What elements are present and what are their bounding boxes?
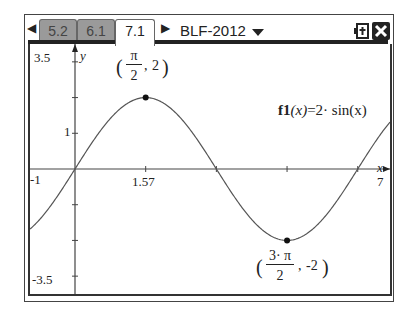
max-point-num: π [126,48,142,65]
tab-7-1[interactable]: 7.1 [115,19,155,46]
paren-close: ) [162,56,169,79]
tab-5-2[interactable]: 5.2 [39,19,77,42]
y-axis-arrow [72,44,78,52]
chevron-down-icon [252,29,264,36]
y-axis-label: y [80,48,86,64]
x-axis-arrow [383,166,390,172]
min-point-den: 2 [266,268,294,284]
min-point-y: -2 [306,258,318,274]
function-arg: (x) [291,102,308,118]
min-point [284,237,290,243]
function-label[interactable]: f1(x)=2· sin(x) [278,102,367,119]
document-title[interactable]: BLF-2012 [180,22,264,39]
graph-canvas[interactable] [30,44,390,294]
max-point-comma: , [144,58,148,74]
tab-6-1[interactable]: 6.1 [77,19,115,42]
y-min-label: -3.5 [32,272,53,288]
function-expression: =2· sin(x) [307,102,367,118]
x-min-label: -1 [30,172,41,188]
max-point-y: 2 [152,58,159,74]
left-arrow-icon[interactable]: ◀ [27,21,36,35]
x-max-label: 7 [377,174,384,190]
battery-icon[interactable] [353,22,371,40]
y-tick-label: 1 [64,124,71,140]
max-point [143,95,149,101]
paren-close: ) [322,256,329,279]
max-point-den: 2 [126,68,142,84]
min-point-num: 3· π [266,248,294,265]
paren-open: ( [116,56,123,79]
right-arrow-icon[interactable]: ▶ [161,21,170,35]
function-name: f1 [278,102,291,118]
paren-open: ( [256,256,263,279]
tab-label: 6.1 [86,23,105,39]
x-tick-label: 1.57 [132,174,155,190]
document-title-text: BLF-2012 [180,22,246,39]
min-point-comma: , [298,258,302,274]
tab-bar: ◀ 5.2 6.1 7.1 ▶ BLF-2012 [25,17,391,41]
tab-label: 7.1 [125,23,144,39]
y-max-label: 3.5 [34,50,50,66]
graph-area[interactable]: 3.5 y 1 -3.5 -1 1.57 x 7 f1(x)=2· sin(x)… [28,44,392,296]
tab-label: 5.2 [48,23,67,39]
close-icon[interactable] [372,22,390,40]
